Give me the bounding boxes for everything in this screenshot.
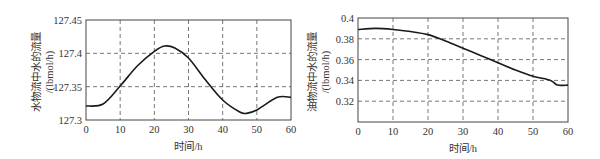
y-tick-label: 127.4 [58, 48, 82, 59]
x-axis-label: 时间/h [449, 142, 478, 154]
x-tick-label: 60 [286, 124, 297, 135]
x-tick-label: 50 [252, 124, 263, 135]
x-tick-label: 10 [388, 126, 399, 137]
x-tick-label: 50 [528, 126, 539, 137]
y-tick-label: 0.4 [341, 13, 355, 24]
y-axis-unit-label: /(lbmol/h) [44, 50, 56, 93]
right-chart: 01020304050600.320.340.360.380.4时间/h油物流中… [300, 0, 600, 159]
x-tick-label: 40 [493, 126, 504, 137]
y-axis-label: 水物流中水的流量 [30, 31, 42, 112]
y-tick-label: 0.34 [336, 75, 355, 86]
left-chart-svg: 0102030405060127.3127.35127.4127.45时间/h水… [0, 0, 300, 159]
y-axis-label: 油物流中水的流量 [306, 31, 318, 112]
y-tick-label: 0.32 [336, 96, 354, 107]
x-tick-label: 20 [149, 124, 160, 135]
x-axis-label: 时间/h [174, 140, 203, 152]
x-tick-label: 60 [563, 126, 574, 137]
y-tick-label: 127.35 [53, 82, 82, 93]
y-tick-label: 127.3 [58, 115, 82, 126]
y-tick-label: 0.38 [336, 34, 354, 45]
x-tick-label: 30 [458, 126, 469, 137]
left-chart: 0102030405060127.3127.35127.4127.45时间/h水… [0, 0, 300, 159]
x-tick-label: 30 [183, 124, 194, 135]
y-axis-unit-label: /(lbmol/h) [320, 50, 332, 93]
x-tick-label: 10 [115, 124, 126, 135]
y-tick-label: 0.36 [336, 55, 354, 66]
y-tick-label: 127.45 [53, 15, 82, 26]
right-chart-svg: 01020304050600.320.340.360.380.4时间/h油物流中… [300, 0, 600, 159]
x-tick-label: 20 [423, 126, 434, 137]
x-tick-label: 0 [83, 124, 88, 135]
x-tick-label: 0 [355, 126, 360, 137]
x-tick-label: 40 [217, 124, 228, 135]
